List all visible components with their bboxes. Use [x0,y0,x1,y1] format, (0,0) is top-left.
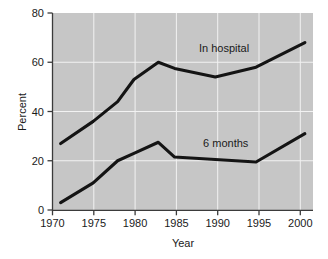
x-tick-label-1975: 1975 [82,217,106,229]
line-chart-svg: 80 60 40 20 0 1970 1975 1980 1985 1990 1… [0,0,328,259]
series-annotation-in-hospital: In hospital [199,42,249,54]
x-tick-label-1970: 1970 [40,217,64,229]
y-tick-label-60: 60 [32,56,44,68]
y-tick-label-40: 40 [32,106,44,118]
x-tick-label-1985: 1985 [164,217,188,229]
x-tick-label-1995: 1995 [247,217,271,229]
y-tick-label-80: 80 [32,7,44,19]
y-tick-label-20: 20 [32,155,44,167]
chart-figure: 80 60 40 20 0 1970 1975 1980 1985 1990 1… [0,0,328,259]
series-annotation-6-months: 6 months [203,137,249,149]
y-tick-label-0: 0 [38,204,44,216]
x-tick-label-1980: 1980 [123,217,147,229]
x-axis-title: Year [172,237,195,249]
x-tick-label-1990: 1990 [205,217,229,229]
y-axis-title: Percent [16,93,28,131]
x-tick-label-2000: 2000 [288,217,312,229]
